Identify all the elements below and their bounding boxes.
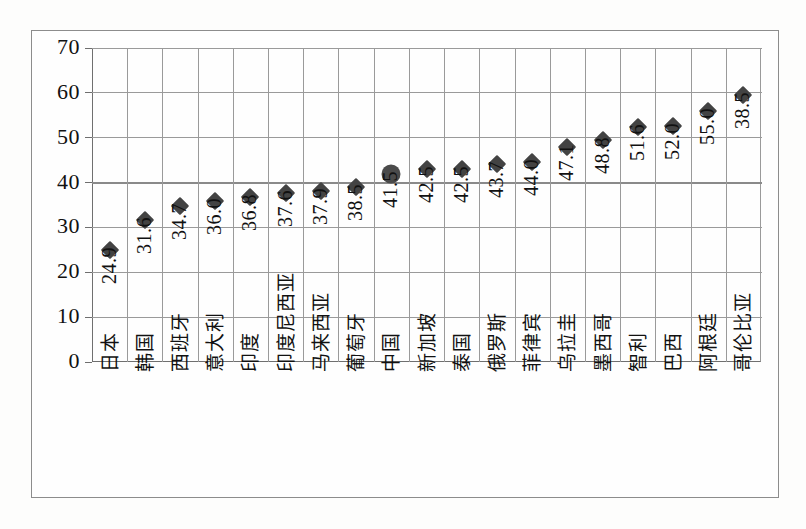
data-value-label: 42.5 [416,166,436,203]
x-axis-category-label: 韩国 [136,332,155,372]
data-value-label: 47.1 [556,144,576,181]
x-axis-category-label: 乌拉圭 [558,312,577,372]
x-gridline [726,48,727,362]
data-value-label: 44.0 [521,159,541,196]
y-gridline-70 [92,48,762,49]
data-value-label: 51.6 [627,124,647,161]
x-axis-category-label: 墨西哥 [594,312,613,372]
x-axis-category-label: 巴西 [664,332,683,372]
x-axis-category-label: 中国 [382,332,401,372]
x-axis-category-label: 葡萄牙 [347,312,366,372]
y-axis-tick-label: 50 [24,126,80,148]
x-gridline [162,48,163,362]
data-value-label: 34.7 [169,203,189,240]
y-axis-tick-label: 40 [24,171,80,193]
data-value-label: 43.7 [486,161,506,198]
x-axis-category-label: 日本 [101,332,120,372]
x-gridline [303,48,304,362]
x-axis-category-label: 智利 [629,332,648,372]
x-axis-category-label: 马来西亚 [312,292,331,372]
y-tick-mark-0 [85,362,92,363]
x-axis-category-label: 印度 [241,332,260,372]
y-axis-tick-label: 20 [24,260,80,282]
x-axis-category-label: 意大利 [206,312,225,372]
scanned-page: 01020304050607024.9日本31.6韩国34.7西班牙36.0意大… [0,0,806,529]
data-value-label: 38.5 [345,184,365,221]
data-value-label: 36.8 [239,194,259,231]
x-gridline [233,48,234,362]
x-axis-category-label: 俄罗斯 [488,312,507,372]
y-axis-tick-label: 60 [24,81,80,103]
x-axis-category-label: 阿根廷 [699,312,718,372]
y-tick-mark-70 [85,48,92,49]
data-value-label: 48.8 [592,137,612,174]
data-value-label: 31.6 [134,217,154,254]
y-axis-tick-label: 30 [24,215,80,237]
x-gridline [691,48,692,362]
data-value-label: 55.0 [697,108,717,145]
y-tick-mark-30 [85,227,92,228]
y-tick-mark-40 [85,182,92,183]
x-gridline [268,48,269,362]
x-axis-category-label: 印度尼西亚 [277,272,296,372]
scatter-chart: 01020304050607024.9日本31.6韩国34.7西班牙36.0意大… [0,0,806,529]
y-tick-mark-20 [85,272,92,273]
x-gridline [409,48,410,362]
data-value-label: 37.9 [310,188,330,225]
y-gridline-20 [92,272,762,273]
x-gridline [444,48,445,362]
x-gridline [585,48,586,362]
y-tick-mark-60 [85,92,92,93]
data-value-label: 42.5 [451,166,471,203]
x-gridline [479,48,480,362]
data-value-label: 37.6 [275,190,295,227]
x-gridline [655,48,656,362]
y-gridline-30 [92,227,762,228]
x-gridline [515,48,516,362]
x-gridline [550,48,551,362]
y-axis-tick-label: 10 [24,305,80,327]
data-value-label: 24.9 [99,247,119,284]
y-axis-tick-label: 70 [24,36,80,58]
x-axis-category-label: 菲律宾 [523,312,542,372]
x-gridline [620,48,621,362]
data-value-label: 36.0 [204,198,224,235]
x-gridline [374,48,375,362]
x-axis-category-label: 西班牙 [171,312,190,372]
data-value-label: 52.0 [662,123,682,160]
y-tick-mark-50 [85,137,92,138]
data-value-label: 38.5 [732,92,752,129]
y-gridline-60 [92,92,762,93]
x-axis-category-label: 哥伦比亚 [734,292,753,372]
x-gridline [127,48,128,362]
y-tick-mark-10 [85,317,92,318]
x-axis-category-label: 新加坡 [418,312,437,372]
x-axis-category-label: 泰国 [453,332,472,372]
y-axis-tick-label: 0 [24,350,80,372]
data-value-label: 41.5 [380,171,400,208]
x-gridline [198,48,199,362]
x-gridline [338,48,339,362]
